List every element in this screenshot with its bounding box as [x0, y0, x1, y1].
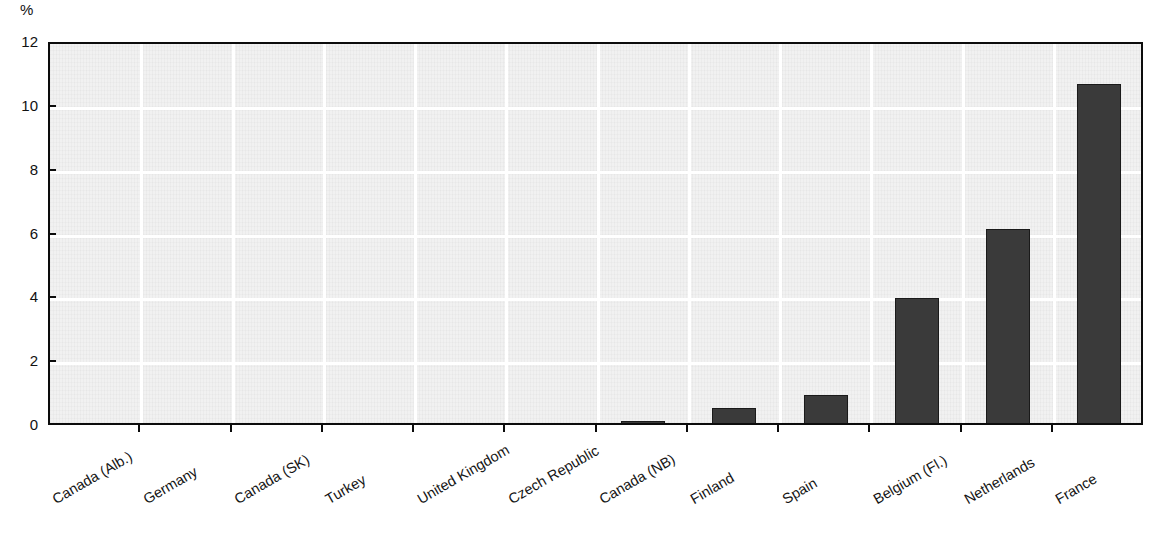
bar-chart: % 024681012 Canada (Alb.)GermanyCanada (…	[0, 0, 1162, 534]
gridline-vertical	[779, 44, 782, 423]
y-axis-tick	[49, 105, 56, 107]
bar	[621, 421, 665, 425]
y-axis-tick	[49, 296, 56, 298]
y-axis-tick-label: 4	[4, 289, 38, 304]
y-axis-tick	[49, 360, 56, 362]
x-axis-tick	[138, 425, 140, 432]
gridline-vertical	[1053, 44, 1056, 423]
x-axis-category-label: Netherlands	[962, 455, 1037, 507]
gridline-vertical	[323, 44, 326, 423]
gridline-vertical	[232, 44, 235, 423]
bar	[712, 408, 756, 425]
x-axis-category-label: Czech Republic	[506, 443, 601, 507]
x-axis-tick	[777, 425, 779, 432]
gridline-vertical	[597, 44, 600, 423]
gridline-vertical	[870, 44, 873, 423]
x-axis-category-label: United Kingdom	[415, 442, 512, 507]
x-axis-category-label: Spain	[780, 475, 820, 507]
gridline-horizontal	[50, 171, 1141, 174]
x-axis-tick	[686, 425, 688, 432]
x-axis-category-label: Germany	[141, 464, 200, 507]
x-axis-category-label: Canada (SK)	[232, 452, 312, 507]
x-axis-category-label: Canada (Alb.)	[50, 449, 135, 507]
y-axis-tick-label: 0	[4, 417, 38, 432]
y-axis-tick-label: 8	[4, 162, 38, 177]
gridline-vertical	[962, 44, 965, 423]
x-axis-tick	[230, 425, 232, 432]
x-axis-category-label: Belgium (Fl.)	[871, 453, 950, 507]
gridline-vertical	[140, 44, 143, 423]
x-axis-tick	[321, 425, 323, 432]
x-axis-tick	[1051, 425, 1053, 432]
x-axis-tick	[503, 425, 505, 432]
x-axis-category-label: France	[1053, 471, 1100, 507]
x-axis-tick	[595, 425, 597, 432]
y-axis-tick-label: 2	[4, 353, 38, 368]
y-axis-tick	[49, 169, 56, 171]
x-axis-category-label: Canada (NB)	[597, 452, 678, 507]
plot-texture	[50, 44, 1141, 423]
gridline-vertical	[414, 44, 417, 423]
gridline-horizontal	[50, 298, 1141, 301]
bar	[1077, 84, 1121, 425]
x-axis-category-label: Turkey	[323, 472, 368, 507]
bar	[530, 424, 574, 425]
y-axis-tick-label: 6	[4, 226, 38, 241]
gridline-horizontal	[50, 107, 1141, 110]
gridline-horizontal	[50, 362, 1141, 365]
y-axis-tick-label: 10	[4, 98, 38, 113]
gridline-vertical	[688, 44, 691, 423]
x-axis-tick	[412, 425, 414, 432]
x-axis-category-label: Finland	[688, 470, 737, 507]
bar	[804, 395, 848, 425]
gridline-vertical	[505, 44, 508, 423]
bar	[895, 298, 939, 425]
x-axis-tick	[868, 425, 870, 432]
x-axis-tick	[960, 425, 962, 432]
y-axis-tick	[49, 233, 56, 235]
bar	[986, 229, 1030, 425]
y-axis-tick-label: 12	[4, 34, 38, 49]
plot-area	[48, 42, 1143, 425]
gridline-horizontal	[50, 235, 1141, 238]
y-axis-unit-label: %	[20, 2, 34, 18]
